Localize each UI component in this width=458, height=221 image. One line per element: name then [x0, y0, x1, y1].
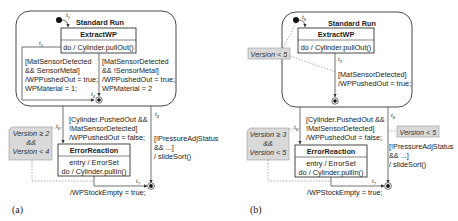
composite-state-title: Standard Run: [328, 19, 376, 28]
panel-a: Standard Run t2 ExtractWP do / Cylinder.…: [9, 11, 219, 216]
svg-text:Version < 5: Version < 5: [251, 50, 289, 59]
version-note-top: Version < 5: [248, 48, 290, 59]
transition-label-t7: t7: [136, 177, 141, 186]
composite-state-title: Standard Run: [76, 18, 124, 27]
svg-text:/WPPushedOut = false;: /WPPushedOut = false;: [69, 133, 145, 142]
final-state-inner: [332, 98, 338, 104]
guard-right: [MatSensorDetected && !SensorMetal] /WPP…: [102, 57, 175, 93]
svg-text:[!PressureAdjStatus: [!PressureAdjStatus: [154, 134, 219, 143]
guard-t9: [MatSensorDetected] /WPPushedOut = true;: [338, 70, 411, 88]
guard-t7: /WPStockEmpty = true;: [70, 188, 146, 197]
state-errorreaction[interactable]: ErrorReaction entry / ErrorSet do / Cyli…: [58, 144, 130, 176]
version-note-left: Version ≥ 3 && Version < 5: [247, 128, 289, 160]
guard-left: [MatSensorDetected && SensorMetal] /WPPu…: [25, 57, 98, 93]
panel-b: Standard Run t0 ExtractWP do / Cylinder.…: [247, 12, 454, 216]
svg-text:/ slideSort(): / slideSort(): [154, 152, 191, 161]
transition-label-t2: t2: [66, 11, 71, 20]
svg-text:/WPPushedOut = true;: /WPPushedOut = true;: [338, 79, 411, 88]
svg-text:[Cylinder.PushedOut &&: [Cylinder.PushedOut &&: [69, 115, 148, 124]
svg-text:/ slideSort(): / slideSort(): [389, 160, 426, 169]
state-extractwp[interactable]: ExtractWP do / Cylinder.pullOut(): [61, 28, 136, 53]
initial-state: [293, 17, 299, 23]
svg-text:/WPPushedOut = true;: /WPPushedOut = true;: [25, 75, 98, 84]
transition-label-t3: t3: [39, 39, 44, 48]
state-action: do / Cylinder.pullIn(): [299, 168, 364, 177]
guard-t6: [Cylinder.PushedOut && !MatSensorDetecte…: [69, 115, 148, 142]
final-state-outer: [148, 183, 155, 190]
state-name: ExtractWP: [318, 30, 355, 39]
state-name: ExtractWP: [80, 30, 117, 39]
svg-text:[MatSensorDetected]: [MatSensorDetected]: [338, 70, 407, 79]
version-note-right: Version < 5: [397, 126, 439, 137]
state-extractwp[interactable]: ExtractWP do / Cylinder.pullOut(): [298, 28, 374, 53]
svg-text:Version < 5: Version < 5: [400, 128, 438, 137]
transition-label-t4: t4: [91, 90, 96, 99]
svg-text:Version < 5: Version < 5: [250, 148, 288, 157]
svg-text:/WPPushedOut = true;: /WPPushedOut = true;: [102, 75, 175, 84]
initial-state: [56, 17, 62, 23]
svg-text:/WPPushedOut = false;: /WPPushedOut = false;: [306, 133, 382, 142]
svg-text:&& ...]: && ...]: [154, 143, 174, 152]
guard-t8: [!PressureAdjStatus && ...] / slideSort(…: [154, 134, 219, 161]
transition-label-t6: t6: [56, 122, 61, 131]
panel-caption: (a): [12, 204, 23, 216]
state-errorreaction[interactable]: ErrorReaction entry / ErrorSet do / Cyli…: [295, 145, 367, 177]
svg-text:Version ≥ 2: Version ≥ 2: [13, 129, 50, 138]
version-note: Version ≥ 2 && Version < 4: [9, 127, 52, 160]
svg-text:&& !SensorMetal]: && !SensorMetal]: [102, 66, 159, 75]
transition-label-t6: t6: [294, 123, 299, 132]
transition-label-t0: t0: [302, 13, 307, 22]
svg-text:WPMaterial = 1;: WPMaterial = 1;: [25, 84, 77, 93]
transition-label-t8: t8: [391, 111, 396, 120]
state-action: do / Cylinder.pullOut(): [63, 43, 134, 52]
transition-label-t9: t9: [338, 55, 343, 64]
svg-text:[MatSensorDetected: [MatSensorDetected: [102, 57, 169, 66]
state-action: entry / ErrorSet: [306, 159, 355, 168]
transition-label-t8: t8: [155, 110, 160, 119]
state-action: do / Cylinder.pullOut(): [301, 43, 372, 52]
transition-label-t7: t7: [372, 177, 377, 186]
svg-text:&&: &&: [26, 138, 36, 147]
svg-text:[Cylinder.PushedOut &&: [Cylinder.PushedOut &&: [306, 115, 385, 124]
svg-text:!MatSensorDetected]: !MatSensorDetected]: [306, 124, 375, 133]
final-state-inner: [96, 97, 102, 103]
final-state-outer: [385, 183, 392, 190]
guard-t7: /WPStockEmpty = true;: [307, 188, 383, 197]
svg-text:!MatSensorDetected]: !MatSensorDetected]: [69, 124, 138, 133]
state-action: do / Cylinder.pullIn(): [62, 167, 127, 176]
guard-t8: [!PressureAdjStatus && ...] / slideSort(…: [389, 142, 454, 169]
svg-text:[MatSensorDetected: [MatSensorDetected: [25, 57, 92, 66]
svg-text:&& ...]: && ...]: [389, 151, 409, 160]
statechart-figure: Standard Run t2 ExtractWP do / Cylinder.…: [0, 0, 458, 221]
svg-text:&&: &&: [263, 139, 273, 148]
svg-text:Version ≥ 3: Version ≥ 3: [250, 130, 287, 139]
guard-t6: [Cylinder.PushedOut && !MatSensorDetecte…: [306, 115, 385, 142]
svg-text:&& SensorMetal]: && SensorMetal]: [25, 66, 80, 75]
state-name: ErrorReaction: [70, 146, 119, 155]
state-name: ErrorReaction: [307, 147, 356, 156]
svg-text:Version < 4: Version < 4: [13, 147, 50, 156]
state-action: entry / ErrorSet: [69, 158, 118, 167]
svg-text:WPMaterial = 2: WPMaterial = 2: [102, 84, 152, 93]
panel-caption: (b): [250, 204, 262, 216]
svg-text:[!PressureAdjStatus: [!PressureAdjStatus: [389, 142, 454, 151]
